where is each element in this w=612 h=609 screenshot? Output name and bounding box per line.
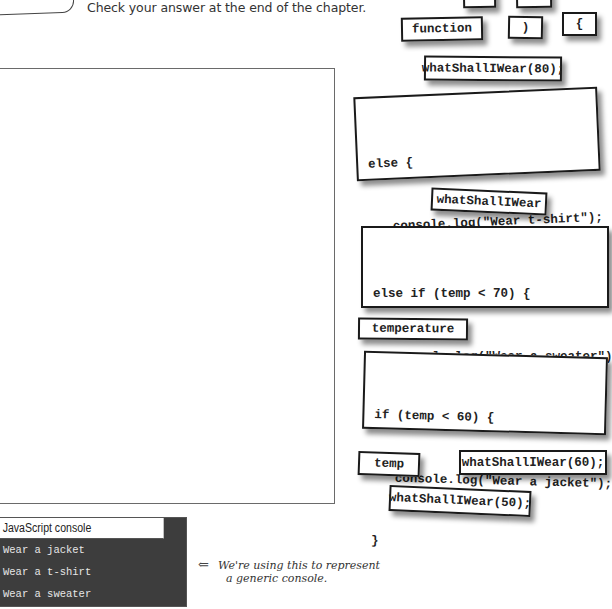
magnet-partial-top-2[interactable] xyxy=(516,0,552,8)
magnet-else-block[interactable]: else { console.log("Wear t-shirt"); } xyxy=(353,87,600,182)
magnet-call-60[interactable]: whatShallIWear(60); xyxy=(459,450,607,475)
magnet-temp-param[interactable]: temp xyxy=(358,451,421,477)
javascript-console: JavaScript console Wear a jacket Wear a … xyxy=(0,517,187,607)
console-output-line: Wear a t-shirt xyxy=(0,561,186,583)
annotation-line-1: We're using this to represent xyxy=(218,559,380,572)
console-annotation: ⇐ We're using this to represent a generi… xyxy=(218,559,380,585)
magnet-if-block[interactable]: if (temp < 60) { console.log("Wear a jac… xyxy=(362,351,608,435)
answer-drop-area[interactable] xyxy=(0,68,335,504)
magnet-call-80[interactable]: whatShallIWear(80); xyxy=(424,55,562,81)
magnet-partial-top-1[interactable] xyxy=(463,0,496,8)
code-line: else { xyxy=(368,145,599,176)
magnet-function-keyword[interactable]: function xyxy=(401,16,483,41)
code-line: } xyxy=(371,531,601,558)
arrow-left-icon: ⇐ xyxy=(198,558,209,571)
instruction-text: Check your answer at the end of the chap… xyxy=(87,0,366,15)
magnet-else-if-block[interactable]: else if (temp < 70) { console.log("Wear … xyxy=(361,226,609,308)
instruction-tab-decoration xyxy=(0,0,74,15)
magnet-temperature-param[interactable]: temperature xyxy=(358,318,468,341)
code-line: else if (temp < 70) { xyxy=(373,284,607,305)
magnet-close-paren[interactable]: ) xyxy=(508,16,543,40)
console-title: JavaScript console xyxy=(0,518,164,539)
annotation-line-2: a generic console. xyxy=(218,572,380,585)
code-line: if (temp < 60) { xyxy=(374,405,604,432)
console-output-line: Wear a jacket xyxy=(0,539,186,561)
console-output-line: Wear a sweater xyxy=(0,583,186,605)
magnet-open-brace[interactable]: { xyxy=(562,12,597,36)
